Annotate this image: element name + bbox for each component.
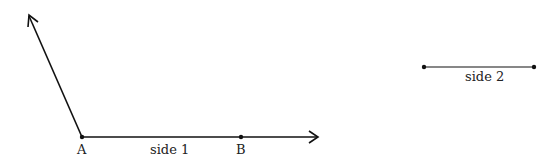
- geometry-diagram: A B side 1 side 2: [0, 0, 550, 166]
- label-side-1: side 1: [150, 142, 189, 157]
- label-b: B: [236, 142, 246, 157]
- side-2-endpoint-left: [422, 65, 426, 69]
- side-2-endpoint-right: [532, 65, 536, 69]
- ray-from-a-upward: [29, 16, 82, 137]
- label-side-2: side 2: [465, 69, 504, 84]
- label-a: A: [76, 142, 87, 157]
- point-b: [239, 135, 243, 139]
- point-a: [80, 135, 84, 139]
